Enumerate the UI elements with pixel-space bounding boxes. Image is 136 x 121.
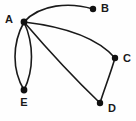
graph-node-label-a: A — [5, 13, 13, 25]
graph-edge-a-c — [24, 22, 115, 58]
graph-node-label-c: C — [123, 52, 131, 64]
graph-edge-a-d — [24, 22, 100, 103]
graph-edge-a-b — [24, 5, 93, 22]
graph-node-a — [21, 19, 28, 26]
graph-node-e — [21, 87, 28, 94]
graph-node-b — [90, 6, 96, 12]
graph-edge-c-d — [100, 58, 115, 103]
graph-node-label-d: D — [108, 102, 116, 114]
graph-node-label-e: E — [20, 96, 27, 108]
graph-node-d — [97, 100, 103, 106]
graph-canvas: ABCDE — [0, 0, 136, 121]
graph-node-c — [112, 55, 118, 61]
graph-edge-a-e-right — [24, 22, 32, 90]
graph-edge-a-e-left — [15, 22, 24, 90]
graph-node-label-b: B — [101, 2, 109, 14]
edges-layer — [15, 5, 115, 103]
graph-figure: ABCDE — [0, 0, 136, 121]
